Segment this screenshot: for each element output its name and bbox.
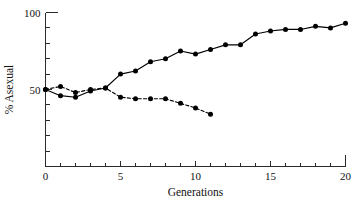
data-point-s1-x1 (58, 84, 63, 89)
data-point-s0-x13 (238, 42, 243, 47)
y-tick-label-100: 100 (24, 7, 41, 19)
x-axis-title: Generations (168, 186, 224, 198)
data-point-s0-x1 (58, 93, 63, 98)
data-point-s0-x17 (298, 27, 303, 32)
data-point-s0-x5 (118, 72, 123, 77)
data-point-s1-x4 (103, 85, 108, 90)
data-point-s0-x6 (133, 69, 138, 74)
x-tick-label-20: 20 (340, 170, 352, 182)
data-point-s0-x15 (268, 28, 273, 33)
data-point-s0-x16 (283, 27, 288, 32)
data-point-s0-x12 (223, 42, 228, 47)
series-line-0 (46, 23, 346, 97)
data-point-s1-x8 (163, 96, 168, 101)
data-point-s1-x2 (73, 90, 78, 95)
data-point-s1-x5 (118, 95, 123, 100)
data-point-s1-x0 (43, 87, 48, 92)
data-point-s0-x19 (328, 25, 333, 30)
y-axis-title: % Asexual (3, 65, 15, 115)
data-point-s1-x6 (133, 96, 138, 101)
data-point-s0-x9 (178, 49, 183, 54)
data-point-s0-x10 (193, 52, 198, 57)
data-point-s0-x7 (148, 59, 153, 64)
data-point-s1-x11 (208, 112, 213, 117)
x-tick-label-0: 0 (43, 170, 49, 182)
data-point-s0-x8 (163, 56, 168, 61)
data-point-s1-x3 (88, 87, 93, 92)
chart-figure: 5010005101520Generations% Asexual (0, 0, 355, 202)
data-point-s1-x9 (178, 101, 183, 106)
data-point-s0-x18 (313, 24, 318, 29)
data-point-s0-x2 (73, 95, 78, 100)
data-point-s0-x20 (343, 21, 348, 26)
x-tick-label-5: 5 (118, 170, 124, 182)
x-tick-label-15: 15 (265, 170, 277, 182)
x-tick-label-10: 10 (190, 170, 202, 182)
data-point-s1-x10 (193, 105, 198, 110)
line-chart-plot: 5010005101520Generations% Asexual (0, 0, 355, 202)
series-line-1 (46, 86, 211, 114)
data-point-s1-x7 (148, 96, 153, 101)
data-point-s0-x11 (208, 47, 213, 52)
y-tick-label-50: 50 (30, 84, 42, 96)
data-point-s0-x14 (253, 32, 258, 37)
